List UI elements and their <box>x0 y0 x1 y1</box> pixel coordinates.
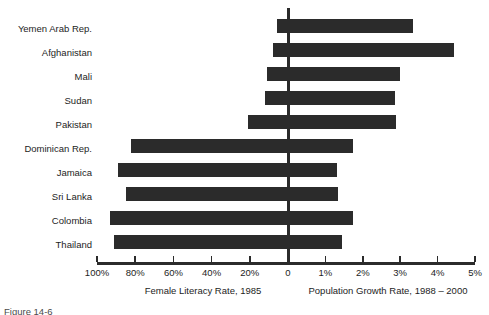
x-axis-tick <box>474 256 476 262</box>
bar-left-pakistan <box>248 115 288 129</box>
x-axis-line <box>97 262 475 265</box>
bar-right-pakistan <box>288 115 396 129</box>
x-axis-tick <box>96 256 98 262</box>
bar-left-sudan <box>265 91 288 105</box>
bar-left-sri-lanka <box>126 187 288 201</box>
x-axis-tick-label: 100% <box>77 268 117 278</box>
bar-left-jamaica <box>118 163 288 177</box>
bar-right-colombia <box>288 211 353 225</box>
bar-right-thailand <box>288 235 342 249</box>
bar-left-afghanistan <box>273 43 288 57</box>
x-axis-tick <box>362 256 364 262</box>
bar-left-thailand <box>114 235 288 249</box>
x-axis-tick-label: 2% <box>343 268 383 278</box>
bar-right-afghanistan <box>288 43 454 57</box>
x-axis-tick-label: 60% <box>153 268 193 278</box>
x-axis-tick <box>287 256 289 262</box>
bar-left-mali <box>267 67 288 81</box>
x-axis-tick-label: 80% <box>115 268 155 278</box>
x-axis-tick <box>211 256 213 262</box>
x-axis-tick <box>437 256 439 262</box>
bar-right-yemen-arab-rep <box>288 19 413 33</box>
bar-left-dominican-rep <box>131 139 288 153</box>
x-axis-tick <box>399 256 401 262</box>
x-axis-tick-label: 1% <box>305 268 345 278</box>
x-axis-tick-label: 5% <box>455 268 489 278</box>
x-axis-tick <box>173 256 175 262</box>
bar-right-jamaica <box>288 163 337 177</box>
x-axis-tick <box>325 256 327 262</box>
bar-right-dominican-rep <box>288 139 353 153</box>
x-axis-tick-label: 40% <box>192 268 232 278</box>
zero-baseline <box>287 8 290 262</box>
left-axis-title: Female Literacy Rate, 1985 <box>118 285 288 296</box>
bar-right-sudan <box>288 91 395 105</box>
x-axis-tick-label: 3% <box>380 268 420 278</box>
x-axis-tick-label: 0 <box>268 268 308 278</box>
bar-right-sri-lanka <box>288 187 338 201</box>
bar-left-colombia <box>110 211 288 225</box>
x-axis-tick-label: 4% <box>418 268 458 278</box>
x-axis-tick <box>249 256 251 262</box>
x-axis-tick <box>134 256 136 262</box>
right-axis-title: Population Growth Rate, 1988 – 2000 <box>290 285 486 296</box>
bar-right-mali <box>288 67 400 81</box>
plot-area <box>0 0 489 260</box>
figure-caption: Figure 14-6 <box>4 306 53 315</box>
x-axis-tick-label: 20% <box>230 268 270 278</box>
